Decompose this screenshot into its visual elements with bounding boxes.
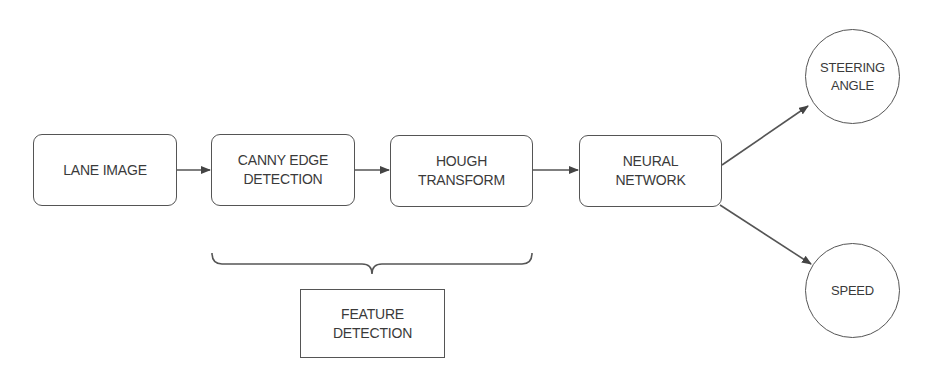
node-label: LANE IMAGE bbox=[63, 161, 147, 180]
node-lane-image: LANE IMAGE bbox=[33, 134, 177, 206]
node-label: HOUGH TRANSFORM bbox=[418, 152, 505, 190]
edge-neural-to-steering bbox=[722, 106, 808, 165]
node-label: CANNY EDGE DETECTION bbox=[238, 151, 328, 189]
edge-neural-to-speed bbox=[720, 205, 811, 264]
node-canny-edge-detection: CANNY EDGE DETECTION bbox=[211, 134, 355, 206]
curly-brace bbox=[212, 253, 532, 274]
node-label: FEATURE DETECTION bbox=[333, 305, 412, 343]
node-neural-network: NEURAL NETWORK bbox=[579, 135, 722, 207]
node-label: STEERING ANGLE bbox=[820, 59, 885, 95]
node-speed: SPEED bbox=[805, 243, 900, 338]
node-label: NEURAL NETWORK bbox=[615, 152, 685, 190]
node-label: SPEED bbox=[831, 282, 874, 300]
node-feature-detection: FEATURE DETECTION bbox=[300, 289, 445, 358]
node-hough-transform: HOUGH TRANSFORM bbox=[390, 135, 533, 207]
node-steering-angle: STEERING ANGLE bbox=[805, 29, 900, 124]
